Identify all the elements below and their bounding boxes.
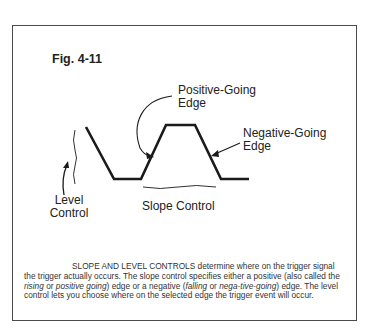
level-bracket: [74, 130, 77, 184]
caption-italic-2: positive going: [56, 281, 107, 291]
caption-text-3: ) edge or a negative (: [107, 281, 186, 291]
negative-edge-label: Negative-Going Edge: [243, 127, 326, 153]
caption-text-4: or: [207, 281, 219, 291]
negative-edge-line2: Edge: [243, 140, 326, 153]
caption-lead: SLOPE AND LEVEL CONTROLS: [24, 261, 195, 271]
caption-text-2: or: [44, 281, 56, 291]
level-arrowhead: [63, 161, 69, 168]
slope-control-label: Slope Control: [142, 200, 215, 213]
level-control-label: Level Control: [49, 194, 89, 220]
caption-italic-1: rising: [24, 281, 44, 291]
caption-italic-4: nega-tive-going: [219, 281, 276, 291]
trigger-waveform: [86, 125, 249, 179]
positive-edge-label: Positive-Going Edge: [178, 84, 256, 110]
positive-edge-line2: Edge: [178, 97, 256, 110]
caption-italic-3: falling: [185, 281, 207, 291]
negative-edge-arrow: [215, 143, 240, 154]
level-arrow: [63, 165, 67, 195]
level-control-line2: Control: [49, 207, 89, 220]
slope-bracket: [143, 186, 216, 189]
figure-caption: SLOPE AND LEVEL CONTROLS determine where…: [24, 262, 344, 301]
negative-edge-arrowhead: [211, 150, 219, 157]
